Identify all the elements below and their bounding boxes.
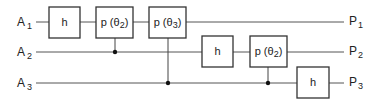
svg-text:p (θ2): p (θ2) <box>255 45 283 59</box>
input-label-1: A1 <box>17 15 32 31</box>
control-dot-g2 <box>113 50 117 54</box>
gate-h-wire3: h <box>297 67 329 98</box>
svg-text:p (θ2): p (θ2) <box>101 16 129 30</box>
svg-text:h: h <box>310 76 316 88</box>
svg-text:p (θ3): p (θ3) <box>154 16 182 30</box>
output-label-2: P2 <box>349 44 363 60</box>
input-label-3: A3 <box>17 76 32 92</box>
control-dot-g5 <box>266 81 270 85</box>
svg-text:h: h <box>214 45 220 57</box>
output-label-1: P1 <box>349 14 363 30</box>
quantum-circuit-diagram: A1 A2 A3 P1 P2 P3 h p (θ2) p (θ3) h p (θ… <box>0 0 379 104</box>
output-label-3: P3 <box>349 75 363 91</box>
input-label-2: A2 <box>17 45 32 61</box>
gate-phase-theta2-wire1: p (θ2) <box>96 7 133 38</box>
gate-phase-theta2-wire2: p (θ2) <box>250 36 287 67</box>
gate-h-wire2: h <box>202 36 233 67</box>
gate-h-wire1: h <box>49 7 80 38</box>
svg-text:h: h <box>61 16 67 28</box>
gate-phase-theta3-wire1: p (θ3) <box>149 7 186 38</box>
control-dot-g3 <box>166 81 170 85</box>
